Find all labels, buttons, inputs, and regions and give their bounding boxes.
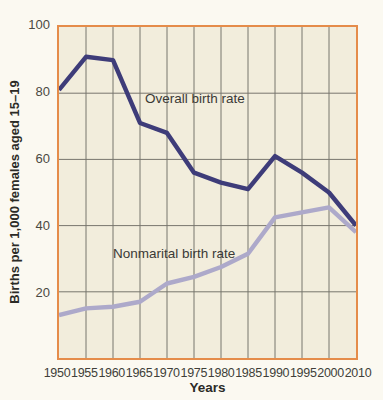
series-label-overall-birth-rate: Overall birth rate — [145, 91, 245, 106]
line-chart: Births per 1,000 females aged 15–19 2040… — [0, 0, 383, 400]
y-tick-label: 60 — [0, 151, 50, 167]
series-line-overall — [59, 57, 356, 226]
x-tick-label: 2010 — [338, 366, 378, 380]
plot-svg — [59, 27, 356, 358]
series-line-nonmarital — [59, 207, 356, 315]
y-tick-label: 20 — [0, 285, 50, 301]
x-axis-title: Years — [57, 380, 358, 395]
plot-area: Overall birth rate Nonmarital birth rate — [57, 25, 358, 360]
y-tick-label: 100 — [0, 17, 50, 33]
y-tick-label: 80 — [0, 84, 50, 100]
series-label-nonmarital-birth-rate: Nonmarital birth rate — [113, 246, 235, 261]
y-axis-title: Births per 1,000 females aged 15–19 — [7, 80, 22, 303]
y-tick-label: 40 — [0, 218, 50, 234]
